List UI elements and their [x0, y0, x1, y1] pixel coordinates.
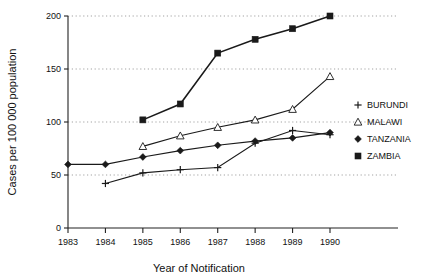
marker-zambia-1985 [140, 117, 146, 123]
marker-tanzania-1987 [214, 142, 221, 149]
marker-tanzania-1983 [65, 161, 72, 168]
x-tick-label-group: 19831984198519861987198819891990 [58, 237, 340, 247]
legend-marker-tanzania [355, 136, 362, 143]
x-tick-label-1983: 1983 [58, 237, 78, 247]
y-axis-title: Cases per 100 000 population [6, 49, 18, 196]
marker-tanzania-1989 [289, 135, 296, 142]
legend-item-burundi[interactable]: BURUNDI [354, 100, 408, 110]
series-burundi [102, 127, 334, 187]
y-tick-label-200: 200 [46, 11, 61, 21]
x-tick-label-1990: 1990 [320, 237, 340, 247]
marker-zambia-1989 [290, 26, 296, 32]
marker-tanzania-1984 [102, 161, 109, 168]
line-chart-figure: 19831984198519861987198819891990 0501001… [0, 0, 429, 279]
marker-malawi-1990 [326, 73, 334, 80]
x-tick-label-1988: 1988 [245, 237, 265, 247]
marker-zambia-1986 [177, 101, 183, 107]
series-line-malawi [143, 76, 330, 146]
series-line-zambia [143, 16, 330, 120]
marker-zambia-1987 [215, 50, 221, 56]
chart-canvas: 19831984198519861987198819891990 0501001… [0, 0, 429, 279]
x-tick-label-1987: 1987 [208, 237, 228, 247]
legend-marker-zambia [355, 153, 361, 159]
x-tick-label-1985: 1985 [133, 237, 153, 247]
marker-zambia-1990 [327, 13, 333, 19]
marker-burundi-1989 [289, 127, 296, 134]
legend-label-zambia: ZAMBIA [367, 151, 401, 161]
marker-burundi-1984 [102, 180, 109, 187]
x-tick-group [68, 228, 330, 233]
legend-item-zambia[interactable]: ZAMBIA [355, 151, 401, 161]
marker-tanzania-1986 [177, 147, 184, 154]
y-tick-group [64, 16, 68, 228]
series-zambia [140, 13, 333, 123]
x-tick-label-1986: 1986 [170, 237, 190, 247]
legend-label-tanzania: TANZANIA [367, 134, 411, 144]
marker-burundi-1987 [214, 164, 221, 171]
y-tick-label-0: 0 [56, 223, 61, 233]
x-axis-title: Year of Notification [153, 262, 245, 274]
y-tick-label-50: 50 [51, 170, 61, 180]
y-tick-label-100: 100 [46, 117, 61, 127]
x-tick-label-1989: 1989 [283, 237, 303, 247]
y-tick-label-group: 050100150200 [46, 11, 61, 233]
data-series-group [65, 13, 334, 187]
chart-legend: BURUNDIMALAWITANZANIAZAMBIA [354, 100, 411, 161]
legend-label-malawi: MALAWI [367, 117, 402, 127]
legend-item-tanzania[interactable]: TANZANIA [355, 134, 411, 144]
legend-label-burundi: BURUNDI [367, 100, 408, 110]
gridlines-group [68, 16, 398, 175]
series-tanzania [65, 129, 334, 168]
marker-burundi-1986 [177, 166, 184, 173]
series-malawi [139, 73, 334, 150]
marker-tanzania-1985 [139, 154, 146, 161]
y-tick-label-150: 150 [46, 64, 61, 74]
legend-marker-burundi [354, 101, 361, 108]
x-tick-label-1984: 1984 [95, 237, 115, 247]
marker-zambia-1988 [252, 36, 258, 42]
